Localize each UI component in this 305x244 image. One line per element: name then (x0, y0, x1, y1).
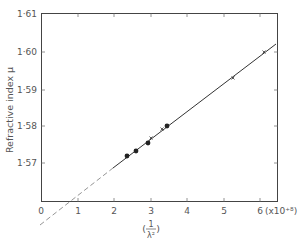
data-point-dot (134, 149, 139, 154)
x-tick-label: 2 (111, 206, 117, 216)
plot-frame (42, 14, 278, 202)
y-ticks (42, 52, 46, 163)
x-tick-label: 5 (221, 206, 227, 216)
data-point-cross (161, 128, 164, 131)
x-tick-label: 0 (38, 206, 44, 216)
x-tick-label: 6 (257, 206, 263, 216)
data-point-dot (146, 141, 151, 146)
y-tick-label: 1·59 (17, 85, 37, 95)
svg-text:): ) (156, 223, 160, 234)
x-unit-label: (x10⁺⁸) (265, 206, 297, 216)
fit-line-extrapolated (40, 168, 113, 225)
x-axis-title-numerator: 1 (148, 220, 153, 229)
x-tick-label: 4 (184, 206, 190, 216)
chart: 1·61 1·60 1·59 1·58 1·57 0 1 2 3 4 5 6 (… (0, 0, 305, 244)
y-axis-title: Refractive index μ (4, 67, 15, 153)
y-tick-label: 1·61 (17, 9, 37, 19)
x-tick-label: 1 (75, 206, 81, 216)
top-ticks (78, 14, 260, 18)
x-axis-title: ( 1 λ² ) (142, 220, 160, 240)
svg-text:(: ( (142, 223, 146, 234)
data-point-dot (125, 154, 130, 159)
y-tick-label: 1·57 (17, 158, 37, 168)
data-point-dot (165, 124, 170, 129)
y-tick-label: 1·58 (17, 121, 37, 131)
y-tick-label: 1·60 (17, 47, 37, 57)
x-tick-label: 3 (148, 206, 154, 216)
x-axis-title-denominator: λ² (147, 231, 155, 240)
x-ticks (78, 198, 260, 202)
right-ticks (274, 52, 278, 163)
